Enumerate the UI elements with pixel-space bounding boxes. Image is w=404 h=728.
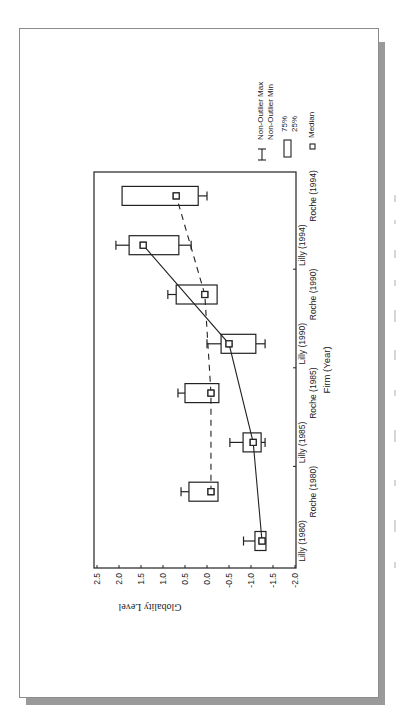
category-tick-label: Lilly (1994) xyxy=(297,224,307,266)
value-tick-label: -0.5 xyxy=(224,573,234,588)
value-tick-label: -1.5 xyxy=(268,573,278,588)
legend-label-25: 25% xyxy=(290,116,299,132)
value-tick-label: 0.5 xyxy=(180,573,190,585)
value-tick-label: -2.0 xyxy=(290,573,300,588)
category-tick-label: Lilly (1990) xyxy=(297,323,307,365)
legend-whisker-icon xyxy=(258,149,266,160)
median-marker xyxy=(140,242,146,248)
median-marker xyxy=(250,439,256,445)
legend-median-icon xyxy=(310,144,315,149)
category-axis-ticks: Lilly (1980)Roche (1980)Lilly (1985)Roch… xyxy=(293,170,318,562)
plot-area xyxy=(94,172,296,568)
box-series xyxy=(116,186,266,550)
box-lilly-1990 xyxy=(207,334,265,353)
median-marker xyxy=(173,193,179,199)
box-lilly-1985 xyxy=(230,433,265,452)
box-roche-1994 xyxy=(122,186,207,205)
box-lilly-1994 xyxy=(116,236,191,255)
median-marker xyxy=(226,341,232,347)
category-axis-title: Firm (Year) xyxy=(321,346,332,393)
median-marker xyxy=(202,292,208,298)
value-tick-label: 2.0 xyxy=(114,573,124,585)
figure-caption-fragment xyxy=(388,190,402,610)
legend: Non-Outlier Max Non-Outlier Min 75% 25% … xyxy=(256,82,316,160)
legend-label-min: Non-Outlier Min xyxy=(266,84,275,140)
legend-box-icon xyxy=(284,140,291,157)
legend-label-75: 75% xyxy=(280,116,289,132)
median-marker xyxy=(259,538,265,544)
median-marker xyxy=(208,489,214,495)
category-tick-label: Roche (1990) xyxy=(308,269,318,321)
roche-median-line xyxy=(176,196,211,492)
category-tick-label: Lilly (1985) xyxy=(297,421,307,463)
value-tick-label: -1.0 xyxy=(246,573,256,588)
category-tick-label: Roche (1985) xyxy=(308,367,318,419)
median-marker xyxy=(208,390,214,396)
category-tick-label: Roche (1994) xyxy=(308,170,318,222)
value-axis-title: Globality Level xyxy=(118,602,181,613)
legend-label-median: Median xyxy=(307,112,316,138)
value-tick-label: 2.5 xyxy=(92,573,102,585)
category-tick-label: Roche (1980) xyxy=(308,466,318,518)
category-tick-label: Lilly (1980) xyxy=(297,520,307,562)
value-tick-label: 1.5 xyxy=(136,573,146,585)
box-plot-chart: 2.52.01.51.00.50.0-0.5-1.0-1.5-2.0 Lilly… xyxy=(0,0,404,728)
value-tick-label: 0.0 xyxy=(202,573,212,585)
value-tick-label: 1.0 xyxy=(158,573,168,585)
legend-label-max: Non-Outlier Max xyxy=(256,82,265,140)
